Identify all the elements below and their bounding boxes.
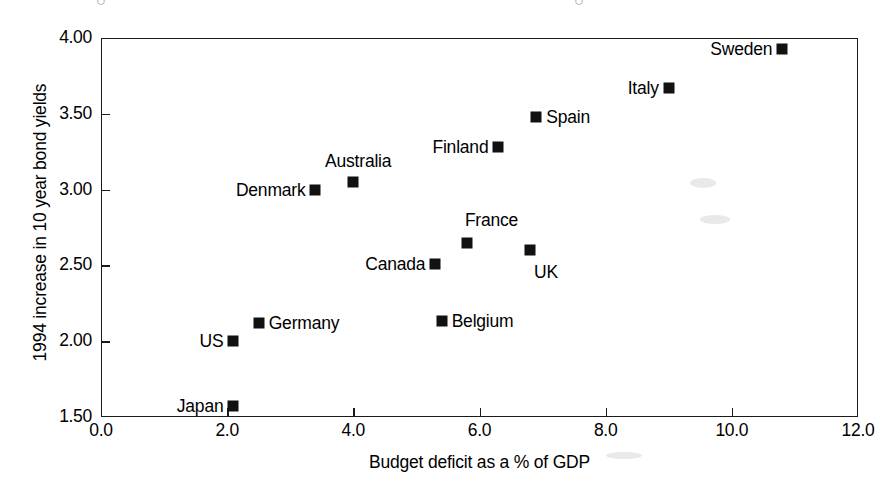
data-point-label-uk: UK bbox=[534, 262, 558, 283]
data-point-label-spain: Spain bbox=[546, 106, 590, 127]
y-tick-label-4.00: 4.00 bbox=[22, 27, 92, 48]
data-point-marker-denmark bbox=[310, 184, 321, 195]
data-point-label-finland: Finland bbox=[432, 137, 488, 158]
data-point-marker-belgium bbox=[436, 316, 447, 327]
data-point-label-sweden: Sweden bbox=[710, 38, 772, 59]
scatter-chart: 1994 increase in 10 year bond yields Bud… bbox=[0, 0, 892, 483]
y-tick-label-3.00: 3.00 bbox=[22, 179, 92, 200]
data-point-marker-germany bbox=[253, 318, 264, 329]
data-point-marker-sweden bbox=[777, 43, 788, 54]
data-point-marker-japan bbox=[228, 401, 239, 412]
y-tick-label-2.00: 2.00 bbox=[22, 330, 92, 351]
y-tick-label-3.50: 3.50 bbox=[22, 103, 92, 124]
data-point-label-germany: Germany bbox=[269, 313, 340, 334]
data-point-marker-canada bbox=[430, 258, 441, 269]
data-point-marker-france bbox=[461, 237, 472, 248]
x-tick-label-0.0: 0.0 bbox=[71, 420, 131, 441]
data-point-label-france: France bbox=[465, 209, 518, 230]
data-point-label-italy: Italy bbox=[628, 78, 659, 99]
y-tick-label-2.50: 2.50 bbox=[22, 254, 92, 275]
data-point-label-japan: Japan bbox=[177, 396, 224, 417]
x-tick-label-8.0: 8.0 bbox=[576, 420, 636, 441]
data-point-label-denmark: Denmark bbox=[236, 179, 306, 200]
data-point-label-belgium: Belgium bbox=[452, 311, 514, 332]
y-tick-mark-3.00 bbox=[101, 190, 110, 192]
y-tick-mark-3.50 bbox=[101, 114, 110, 116]
x-tick-label-2.0: 2.0 bbox=[197, 420, 257, 441]
scan-smudge-b bbox=[700, 215, 730, 224]
x-tick-label-10.0: 10.0 bbox=[702, 420, 762, 441]
data-point-marker-australia bbox=[348, 177, 359, 188]
data-point-marker-spain bbox=[531, 111, 542, 122]
data-point-marker-us bbox=[228, 336, 239, 347]
x-tick-label-6.0: 6.0 bbox=[450, 420, 510, 441]
data-point-marker-uk bbox=[524, 245, 535, 256]
data-point-label-us: US bbox=[200, 331, 224, 352]
x-tick-mark-6.0 bbox=[480, 408, 482, 417]
y-tick-mark-2.50 bbox=[101, 265, 110, 267]
x-tick-label-4.0: 4.0 bbox=[323, 420, 383, 441]
x-axis-title: Budget deficit as a % of GDP bbox=[101, 452, 858, 473]
y-axis-title: 1994 increase in 10 year bond yields bbox=[30, 23, 51, 423]
data-point-label-canada: Canada bbox=[365, 253, 425, 274]
y-tick-mark-2.00 bbox=[101, 341, 110, 343]
data-point-label-australia: Australia bbox=[325, 151, 391, 172]
scan-artifact-left: ○ bbox=[96, 0, 106, 10]
x-tick-mark-8.0 bbox=[606, 408, 608, 417]
x-tick-mark-4.0 bbox=[353, 408, 355, 417]
scan-smudge-c bbox=[606, 452, 642, 459]
x-tick-mark-10.0 bbox=[732, 408, 734, 417]
x-tick-label-12.0: 12.0 bbox=[828, 420, 888, 441]
data-point-marker-italy bbox=[663, 83, 674, 94]
scan-smudge-a bbox=[690, 178, 716, 188]
data-point-marker-finland bbox=[493, 142, 504, 153]
scan-artifact-right: ○ bbox=[574, 0, 584, 10]
